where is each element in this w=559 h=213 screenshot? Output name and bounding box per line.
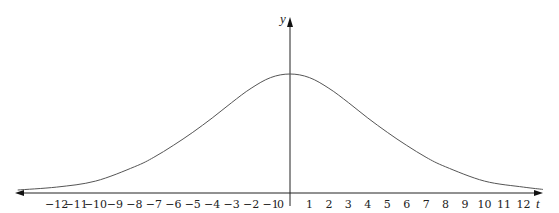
bell-curve-line — [18, 74, 543, 190]
x-tick-label: −7 — [146, 198, 162, 211]
x-tick-label: −3 — [224, 198, 240, 211]
x-tick-label: 6 — [403, 198, 410, 211]
x-tick-label: 0 — [277, 198, 284, 211]
x-tick-label: −6 — [165, 198, 181, 211]
bell-curve-chart: t y −12−11−10−9−8−7−6−5−4−3−2−1012345678… — [0, 0, 559, 213]
x-tick-label: −8 — [126, 198, 142, 211]
x-tick-label: 11 — [497, 198, 511, 211]
x-tick-labels: −12−11−10−9−8−7−6−5−4−3−2−10123456789101… — [45, 198, 530, 211]
x-tick-label: −5 — [185, 198, 201, 211]
x-tick-label: 7 — [423, 198, 430, 211]
x-tick-label: −9 — [107, 198, 123, 211]
x-tick-label: 12 — [516, 198, 530, 211]
x-tick-label: 2 — [325, 198, 332, 211]
x-tick-label: −2 — [243, 198, 259, 211]
x-tick-label: 9 — [462, 198, 469, 211]
x-tick-label: 10 — [478, 198, 492, 211]
x-tick-label: −10 — [84, 198, 107, 211]
x-tick-label: 5 — [384, 198, 391, 211]
x-tick-label: 8 — [442, 198, 449, 211]
x-tick-label: −4 — [204, 198, 220, 211]
x-tick-label: 1 — [306, 198, 313, 211]
x-axis-label: t — [536, 196, 540, 211]
x-tick-label: 3 — [345, 198, 352, 211]
x-tick-label: 4 — [364, 198, 371, 211]
x-axis-left-arrow-icon — [15, 190, 24, 196]
y-axis-label: y — [278, 11, 286, 26]
y-axis-arrow-icon — [287, 17, 293, 27]
